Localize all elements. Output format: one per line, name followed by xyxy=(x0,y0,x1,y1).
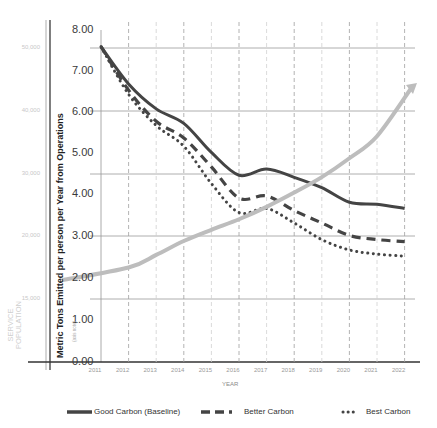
pop-title-line2: POPULATION xyxy=(15,290,23,360)
vertical-gridlines xyxy=(129,22,405,362)
x-tick-2013: 2013 xyxy=(138,367,162,373)
legend-label: Good Carbon (Baseline) xyxy=(94,407,180,416)
y-tick-7: 7.00 xyxy=(72,64,93,76)
x-tick-2015: 2015 xyxy=(193,367,217,373)
y-tick-2: 2.00 xyxy=(72,271,93,283)
service-population-axis-title: SERVICE POPULATION xyxy=(7,290,23,360)
x-tick-2016: 2016 xyxy=(221,367,245,373)
pop-tick-40000: 40,000 xyxy=(0,107,40,113)
x-tick-2019: 2019 xyxy=(304,367,328,373)
y-tick-3: 3.00 xyxy=(72,229,93,241)
series-good-carbon xyxy=(101,47,405,209)
x-tick-2021: 2021 xyxy=(359,367,383,373)
pop-tick-30000: 30,000 xyxy=(0,170,40,176)
x-tick-2018: 2018 xyxy=(276,367,300,373)
legend-label: Best Carbon xyxy=(366,407,410,416)
x-tick-2014: 2014 xyxy=(166,367,190,373)
y-tick-0: 0.00 xyxy=(72,355,93,367)
y-tick-8: 8.00 xyxy=(72,23,93,35)
y-axis-title: Metric Tons Emitted per person per Year … xyxy=(55,113,65,358)
x-tick-2020: 2020 xyxy=(331,367,355,373)
x-tick-2017: 2017 xyxy=(249,367,273,373)
legend-item-better-carbon: Better Carbon xyxy=(244,407,294,416)
y-tick-4: 4.00 xyxy=(72,187,93,199)
x-tick-2012: 2012 xyxy=(111,367,135,373)
series-service-population xyxy=(62,87,412,280)
x-tick-2011: 2011 xyxy=(83,367,107,373)
y-tick-5: 5.00 xyxy=(72,146,93,158)
legend-item-best-carbon: Best Carbon xyxy=(366,407,410,416)
data-series xyxy=(62,47,417,281)
x-axis-title: YEAR xyxy=(222,381,238,387)
pop-tick-50000: 50,000 xyxy=(0,44,40,50)
chart-canvas xyxy=(0,0,437,428)
x-tick-2022: 2022 xyxy=(387,367,411,373)
legend-item-good-carbon: Good Carbon (Baseline) xyxy=(94,407,180,416)
axis-note: (axis note) xyxy=(72,321,77,342)
pop-tick-20000: 20,000 xyxy=(0,232,40,238)
y-tick-6: 6.00 xyxy=(72,105,93,117)
legend-label: Better Carbon xyxy=(244,407,294,416)
